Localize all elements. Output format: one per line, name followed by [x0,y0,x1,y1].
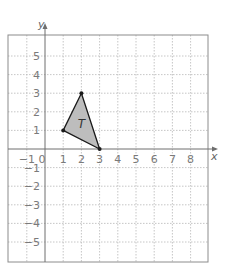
y-tick-label: −3 [24,199,40,212]
vertex-point [79,91,83,95]
x-tick-label: 4 [114,153,121,166]
y-tick-label: −5 [24,236,40,249]
y-tick-label: −1 [24,162,40,175]
x-tick-label: 2 [78,153,85,166]
y-tick-label: 5 [33,50,40,63]
y-tick-label: 3 [33,87,40,100]
x-tick-label: 6 [151,153,158,166]
y-tick-label: 1 [33,124,40,137]
x-tick-label: 8 [187,153,194,166]
coordinate-grid: −101234567854321−1−2−3−4−5 T x y [0,0,225,274]
x-tick-label: 3 [96,153,103,166]
x-axis-label: x [210,150,218,163]
y-tick-label: 4 [33,69,40,82]
x-tick-label: 7 [169,153,176,166]
y-tick-label: 2 [33,106,40,119]
x-tick-label: 1 [60,153,67,166]
y-tick-label: −4 [24,217,40,230]
vertex-point [98,147,102,151]
vertex-point [61,128,65,132]
y-tick-label: −2 [24,180,40,193]
shapes: T [61,91,101,151]
x-tick-label: 5 [133,153,140,166]
y-axis-label: y [37,18,45,31]
